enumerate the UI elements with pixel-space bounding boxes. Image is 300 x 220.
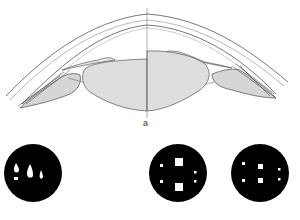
panel-label: a xyxy=(143,118,148,128)
lens-left-half xyxy=(83,59,147,111)
disc-1 xyxy=(4,144,62,202)
disc-3 xyxy=(231,144,289,202)
eye-diagram xyxy=(0,0,300,220)
disc-2 xyxy=(149,144,207,202)
